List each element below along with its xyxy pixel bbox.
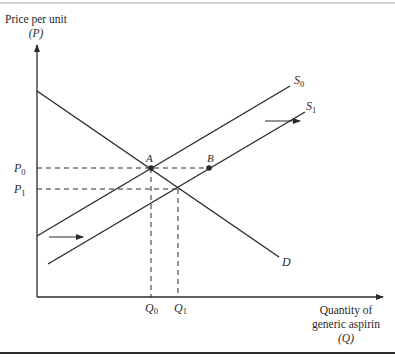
point-a-marker [148,165,154,171]
d-label: D [281,255,291,269]
q1-label: Q1 [174,301,187,316]
demand-curve [37,91,279,257]
q0-label: Q0 [145,301,158,316]
x-axis-label-line3: (Q) [338,332,354,345]
s0-label: S0 [294,73,304,89]
p0-label: P0 [13,161,26,177]
s1-label: S1 [306,99,316,115]
supply-curve-s0 [37,86,290,236]
p1-label: P1 [13,182,26,198]
point-a-label: A [145,152,153,164]
y-axis-label-line1: Price per unit [5,13,68,26]
point-b-label: B [207,152,214,164]
supply-curve-s1 [48,112,305,264]
x-axis-label-line1: Quantity of [320,304,373,317]
supply-demand-diagram: Price per unit (P) Quantity of generic a… [0,0,395,357]
x-axis-label-line2: generic aspirin [312,318,380,331]
point-b-marker [206,165,212,171]
y-axis-label-line2: (P) [29,27,44,40]
